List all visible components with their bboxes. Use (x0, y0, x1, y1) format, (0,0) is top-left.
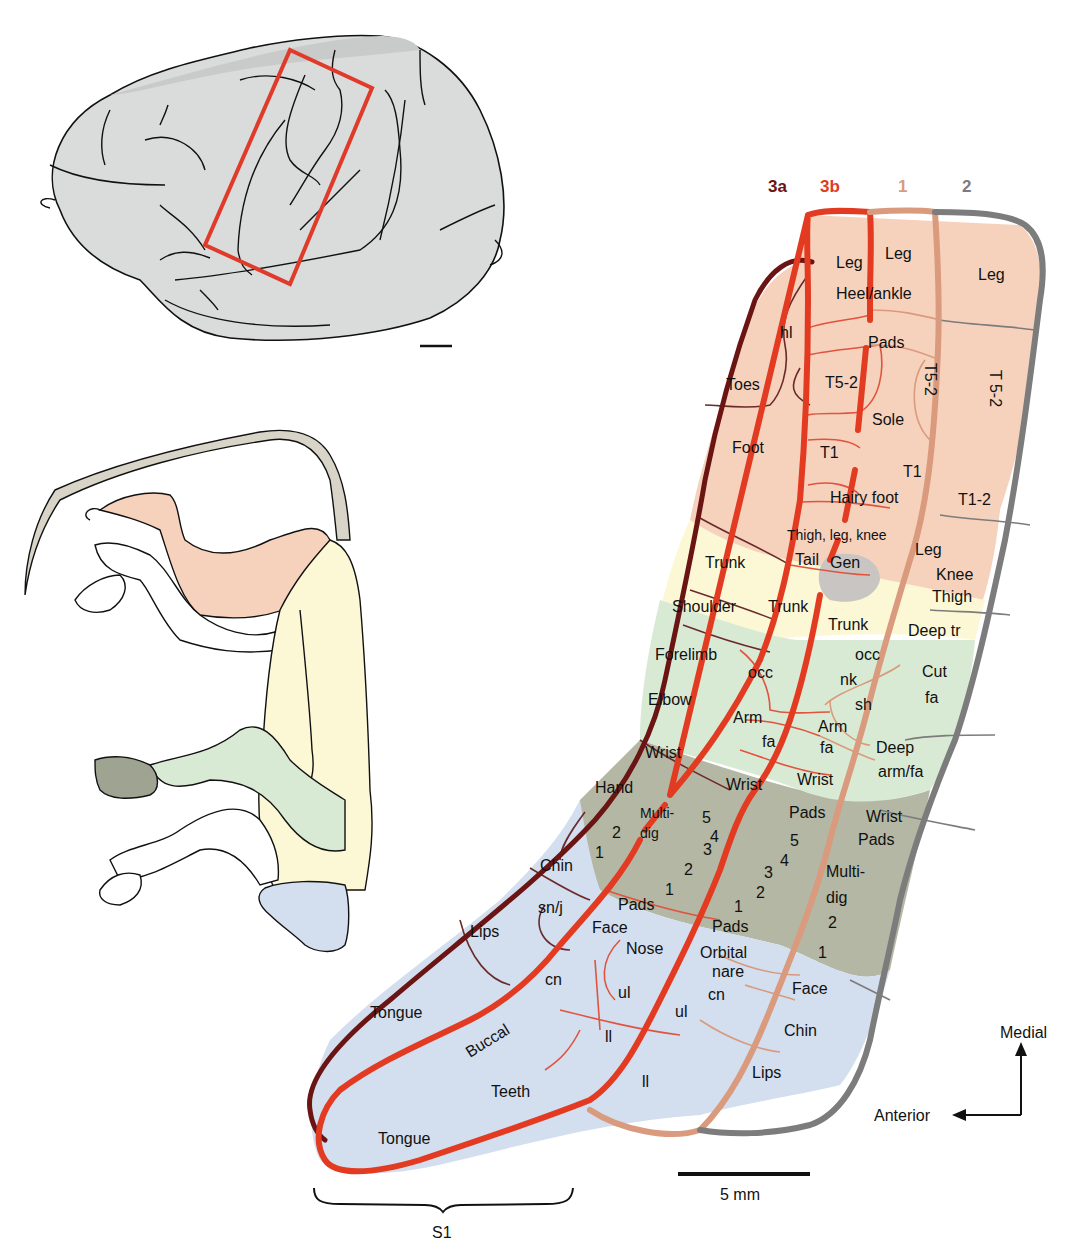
anterior-label: Anterior (874, 1107, 931, 1124)
label-leg-3b: Leg (836, 254, 863, 271)
label-ll-1: ll (642, 1073, 649, 1090)
label-pads-3b: Pads (618, 896, 654, 913)
label-shoulder: Shoulder (672, 598, 737, 615)
label-wrist-3a: Wrist (645, 744, 682, 761)
label-cn-1: cn (708, 986, 725, 1003)
area-header-2: 2 (962, 177, 971, 196)
label-hairy-foot: Hairy foot (830, 489, 899, 506)
area-header-3a: 3a (768, 177, 787, 196)
label-dig-2: dig (826, 889, 847, 906)
label-d2-3a: 2 (612, 824, 621, 841)
label-nk: nk (840, 671, 858, 688)
label-d3-1: 3 (764, 864, 773, 881)
label-orbital: Orbital (700, 944, 747, 961)
label-fa-1: fa (820, 739, 833, 756)
label-foot: Foot (732, 439, 765, 456)
label-pads-foot: Pads (868, 334, 904, 351)
label-t52-2: T 5-2 (987, 370, 1004, 407)
label-tail: Tail (795, 551, 819, 568)
label-t1-1: T1 (903, 463, 922, 480)
label-d5-3b: 5 (702, 809, 711, 826)
label-t12-2: T1-2 (958, 491, 991, 508)
label-wrist-1: Wrist (797, 771, 834, 788)
label-d1-3b: 1 (665, 881, 674, 898)
somatosensory-map-figure: 3a 3b 1 2 Leg Leg Leg Heel/ankle hl Pads… (0, 0, 1066, 1251)
medial-arrowhead-icon (1015, 1042, 1027, 1056)
label-teeth: Teeth (491, 1083, 530, 1100)
label-heel-ankle: Heel/ankle (836, 285, 912, 302)
label-fa-2: fa (925, 689, 938, 706)
label-lips-3a: Lips (470, 923, 499, 940)
label-toes: Toes (726, 376, 760, 393)
label-t1-3b: T1 (820, 444, 839, 461)
label-d1-3a: 1 (595, 844, 604, 861)
label-wrist-2: Wrist (866, 808, 903, 825)
label-ll-3b: ll (605, 1028, 612, 1045)
label-multi-2: Multi- (826, 863, 865, 880)
label-d1-1: 1 (734, 898, 743, 915)
label-dig-3a: dig (640, 825, 659, 841)
scale-bar-label: 5 mm (720, 1186, 760, 1203)
label-chin-2: Chin (784, 1022, 817, 1039)
label-snj: sn/j (538, 899, 563, 916)
label-hand: Hand (595, 779, 633, 796)
scale-bar: 5 mm (678, 1174, 810, 1203)
label-pads-1: Pads (712, 918, 748, 935)
label-gen: Gen (830, 554, 860, 571)
brain-illustration (41, 36, 504, 347)
orientation-indicator: Medial Anterior (874, 1024, 1047, 1124)
s1-bracket: S1 (314, 1188, 573, 1241)
label-d2-3b: 2 (684, 861, 693, 878)
label-wrist-3b: Wrist (726, 776, 763, 793)
label-occ-3b: occ (748, 664, 773, 681)
label-arm-fa: arm/fa (878, 763, 923, 780)
label-t52-3b: T5-2 (825, 374, 858, 391)
medial-label: Medial (1000, 1024, 1047, 1041)
label-d2-2: 2 (828, 914, 837, 931)
label-trunk-1: Trunk (828, 616, 869, 633)
label-leg-2: Leg (978, 266, 1005, 283)
label-pads-1top: Pads (789, 804, 825, 821)
label-nare: nare (712, 963, 744, 980)
label-deep: Deep (876, 739, 914, 756)
label-d1-2: 1 (818, 944, 827, 961)
label-sh: sh (855, 696, 872, 713)
label-elbow: Elbow (648, 691, 692, 708)
label-thigh: Thigh (932, 588, 972, 605)
label-cn-3b: cn (545, 971, 562, 988)
label-cut: Cut (922, 663, 947, 680)
label-tongue-3a: Tongue (370, 1004, 423, 1021)
label-chin-3a: Chin (540, 857, 573, 874)
label-lips-2: Lips (752, 1064, 781, 1081)
label-arm-3b: Arm (733, 709, 762, 726)
label-leg-2b: Leg (915, 541, 942, 558)
label-d4-1: 4 (780, 852, 789, 869)
label-multi-3a: Multi- (640, 805, 675, 821)
s1-label: S1 (432, 1224, 452, 1241)
label-d5-1: 5 (790, 832, 799, 849)
label-ul-1: ul (675, 1003, 687, 1020)
label-forelimb: Forelimb (655, 646, 717, 663)
label-nose: Nose (626, 940, 663, 957)
label-face-3b: Face (592, 919, 628, 936)
label-leg-1: Leg (885, 245, 912, 262)
area-header-1: 1 (898, 177, 907, 196)
bracket-icon (314, 1188, 573, 1212)
area-header-3b: 3b (820, 177, 840, 196)
anterior-arrowhead-icon (952, 1109, 966, 1121)
label-thigh-leg-knee: Thigh, leg, knee (787, 527, 887, 543)
label-knee: Knee (936, 566, 973, 583)
label-fa-3b: fa (762, 733, 775, 750)
label-deep-tr: Deep tr (908, 622, 961, 639)
label-d3-3b: 3 (703, 841, 712, 858)
label-trunk-3a: Trunk (705, 554, 746, 571)
label-face-2: Face (792, 980, 828, 997)
label-pads-2: Pads (858, 831, 894, 848)
label-sole: Sole (872, 411, 904, 428)
label-ul-3b: ul (618, 984, 630, 1001)
label-tongue-3b: Tongue (378, 1130, 431, 1147)
monkey-body-illustration (25, 430, 372, 951)
label-trunk-3b: Trunk (768, 598, 809, 615)
label-occ-1: occ (855, 646, 880, 663)
label-t52-1: T5-2 (922, 363, 939, 396)
